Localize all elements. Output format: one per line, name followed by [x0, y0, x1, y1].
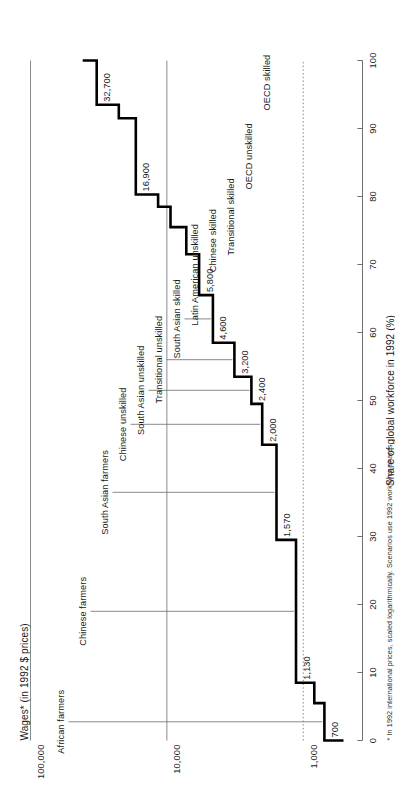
x-axis-tick-label: 10 — [366, 667, 377, 678]
category-callout-label: Chinese farmers — [77, 576, 87, 645]
footnote: * In 1992 international prices, scaled l… — [384, 444, 393, 740]
category-callout-label: Transitional skilled — [225, 178, 235, 255]
x-axis-group — [357, 60, 362, 740]
x-axis-tick-label: 80 — [366, 191, 377, 202]
category-callout-label: Chinese unskilled — [117, 387, 127, 461]
y-axis-tick-label: 10,000 — [170, 744, 181, 773]
category-callout-label: South Asian skilled — [171, 279, 181, 358]
x-axis-tick-label: 20 — [366, 599, 377, 610]
category-callout-label: OECD skilled — [261, 54, 271, 110]
y-axis-tick-label: 100,000 — [34, 744, 45, 779]
category-callout-label: Latin American unskilled — [189, 223, 199, 324]
category-callout-label: South Asian farmers — [99, 449, 109, 534]
x-axis-tick-label: 100 — [366, 52, 377, 68]
category-callout-label: OECD unskilled — [243, 123, 253, 189]
x-axis-tick-label: 60 — [366, 327, 377, 338]
step-value-label: 4,600 — [217, 316, 227, 340]
step-value-label: 32,700 — [101, 73, 111, 102]
step-value-label: 2,000 — [267, 418, 277, 442]
x-axis-tick-label: 0 — [366, 737, 377, 742]
step-value-label: 1,570 — [281, 513, 291, 537]
category-callout-label: African farmers — [55, 689, 65, 753]
x-axis-tick-label: 70 — [366, 259, 377, 270]
x-axis-tick-label: 40 — [366, 463, 377, 474]
y-axis-title: Wages* (in 1992 $ prices) — [18, 623, 29, 740]
x-axis-tick-label: 50 — [366, 395, 377, 406]
step-value-label: 16,900 — [140, 162, 150, 191]
category-callout-label: Transitional unskilled — [153, 315, 163, 403]
x-axis-tick-label: 90 — [366, 123, 377, 134]
step-value-label: 700 — [329, 721, 339, 737]
step-value-label: 1,130 — [301, 656, 311, 680]
category-callout-label: South Asian unskilled — [135, 345, 145, 434]
y-axis-tick-label: 1,000 — [307, 744, 318, 768]
x-axis-tick-label: 30 — [366, 531, 377, 542]
category-callout-label: Chinese skilled — [207, 209, 217, 272]
step-value-label: 3,200 — [239, 350, 249, 374]
step-value-label: 2,400 — [256, 377, 266, 401]
